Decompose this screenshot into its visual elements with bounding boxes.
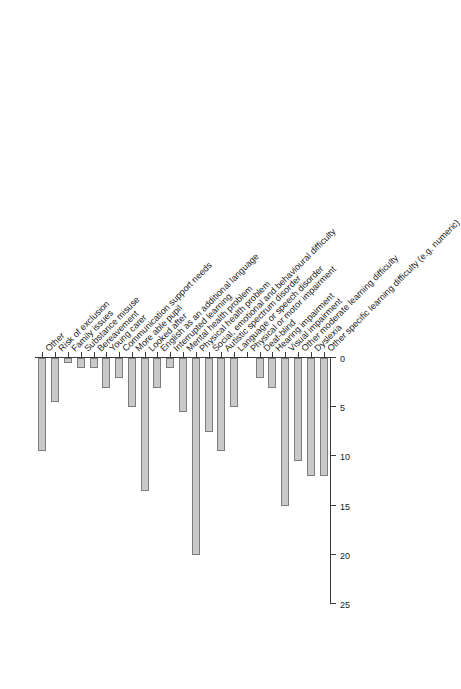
bar	[51, 358, 59, 402]
bar	[141, 358, 149, 491]
bar	[115, 358, 123, 378]
bar	[307, 358, 315, 476]
bar	[230, 358, 238, 407]
bar	[320, 358, 328, 476]
bar	[205, 358, 213, 432]
bar	[192, 358, 200, 555]
bar	[217, 358, 225, 451]
bar	[281, 358, 289, 506]
bar	[256, 358, 264, 378]
bar	[166, 358, 174, 368]
bar	[294, 358, 302, 461]
bar	[102, 358, 110, 388]
bar	[64, 358, 72, 363]
bar	[128, 358, 136, 407]
bar	[268, 358, 276, 388]
bar	[179, 358, 187, 412]
bar	[90, 358, 98, 368]
bar	[38, 358, 46, 451]
bar	[153, 358, 161, 388]
bar	[77, 358, 85, 368]
